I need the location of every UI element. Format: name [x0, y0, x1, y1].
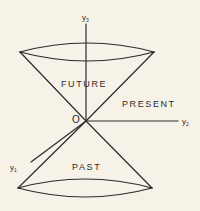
future-cone-rim-back	[20, 43, 154, 52]
future-cone-rim-front	[20, 52, 154, 61]
past-cone-left-edge	[18, 121, 86, 188]
past-label: PAST	[72, 162, 101, 172]
past-cone-right-edge	[86, 121, 152, 188]
y3-axis-label: y3	[82, 13, 89, 23]
past-cone-rim-back	[18, 179, 152, 188]
past-cone	[18, 121, 152, 197]
present-label: PRESENT	[122, 99, 176, 109]
future-label: FUTURE	[61, 79, 107, 89]
light-cone-diagram: y3 y2 y1 O FUTURE PRESENT PAST	[0, 0, 200, 211]
past-cone-rim-front	[18, 188, 152, 197]
y2-axis-label: y2	[182, 117, 189, 127]
y1-axis	[31, 121, 86, 162]
y1-axis-label: y1	[10, 163, 17, 173]
origin-label: O	[72, 114, 80, 125]
axes	[31, 24, 178, 162]
